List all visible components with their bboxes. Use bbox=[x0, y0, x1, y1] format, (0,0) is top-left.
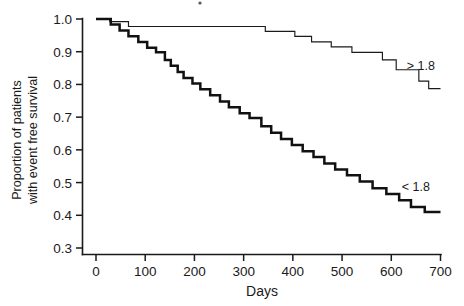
curve-annotation-less-than-1.8: < 1.8 bbox=[402, 180, 430, 194]
y-tick-label: 0.3 bbox=[53, 241, 72, 256]
x-tick-label: 400 bbox=[282, 264, 305, 279]
survival-chart: 0.30.40.50.60.70.80.91.0 010020030040050… bbox=[0, 0, 464, 306]
y-axis-title-line1: Proportion of patients bbox=[10, 80, 24, 200]
x-tick-label: 600 bbox=[380, 264, 403, 279]
x-tick-label: 0 bbox=[92, 264, 100, 279]
y-tick-label: 0.7 bbox=[53, 110, 72, 125]
y-tick-label: 0.5 bbox=[53, 176, 72, 191]
x-tick-label: 500 bbox=[331, 264, 354, 279]
curve-annotation-greater-than-1.8: > 1.8 bbox=[407, 59, 435, 73]
y-tick-label: 0.9 bbox=[53, 45, 72, 60]
x-tick-label: 300 bbox=[232, 264, 255, 279]
y-tick-label: 1.0 bbox=[53, 12, 72, 27]
y-tick-label: 0.6 bbox=[53, 143, 72, 158]
chart-canvas: 0.30.40.50.60.70.80.91.0 010020030040050… bbox=[0, 0, 464, 306]
x-tick-label: 100 bbox=[134, 264, 157, 279]
x-tick-label: 200 bbox=[183, 264, 206, 279]
y-tick-label: 0.4 bbox=[53, 208, 72, 223]
x-tick-label: 700 bbox=[429, 264, 452, 279]
y-tick-label: 0.8 bbox=[53, 77, 72, 92]
x-axis-title: Days bbox=[246, 283, 278, 299]
y-axis-title-line2: with event free survival bbox=[26, 76, 40, 205]
title-remnant-mark bbox=[198, 1, 201, 4]
